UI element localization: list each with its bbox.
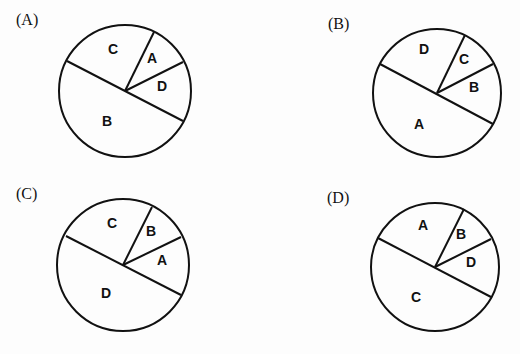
slice-label: B xyxy=(102,113,112,129)
slice-label: C xyxy=(411,289,421,305)
slice-label: D xyxy=(157,78,167,94)
pie-chart-1: DCBA xyxy=(373,29,501,157)
pie-chart-2: CBAD xyxy=(57,199,189,331)
pie-chart-3: ABDC xyxy=(371,203,499,331)
slice-divider xyxy=(125,62,183,91)
pie-charts: CADBDCBACBADABDC xyxy=(0,0,520,354)
slice-label: B xyxy=(456,226,466,242)
slice-label: D xyxy=(419,41,429,57)
slice-label: A xyxy=(157,252,167,268)
slice-label: A xyxy=(414,116,424,132)
slice-label: A xyxy=(147,50,157,66)
slice-label: C xyxy=(107,215,117,231)
slice-label: B xyxy=(146,223,156,239)
slice-label: D xyxy=(466,254,476,270)
slice-label: C xyxy=(108,41,118,57)
slice-divider xyxy=(435,239,491,267)
slice-divider xyxy=(123,237,181,265)
slice-divider xyxy=(437,64,493,93)
slice-label: B xyxy=(469,79,479,95)
slice-label: D xyxy=(101,285,111,301)
pie-chart-0: CADB xyxy=(59,25,191,157)
slice-label: A xyxy=(418,217,428,233)
slice-label: C xyxy=(459,51,469,67)
